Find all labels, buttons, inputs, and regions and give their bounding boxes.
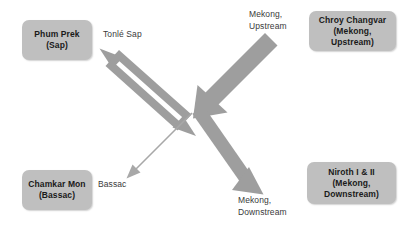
flow-diagram: Phum Prek (Sap) Chroy Changvar (Mekong, …: [0, 0, 403, 230]
node-phum-prek[interactable]: Phum Prek (Sap): [22, 20, 92, 60]
node-chroy-changvar[interactable]: Chroy Changvar (Mekong, Upstream): [309, 11, 396, 51]
node-niroth[interactable]: Niroth I & II (Mekong, Downstream): [307, 162, 396, 204]
edge-label-mekong-downstream: Mekong, Downstream: [238, 195, 306, 218]
edge-label-tonle-sap: Tonlé Sap: [103, 29, 163, 41]
node-chroy-changvar-label: Chroy Changvar (Mekong, Upstream): [316, 15, 390, 48]
node-chamkar-mon-label: Chamkar Mon (Bassac): [25, 179, 88, 201]
node-chamkar-mon[interactable]: Chamkar Mon (Bassac): [22, 170, 92, 210]
edge-label-mekong-upstream: Mekong, Upstream: [249, 9, 305, 32]
node-niroth-label: Niroth I & II (Mekong, Downstream): [321, 167, 382, 200]
arrow-mekong-upstream: [193, 33, 278, 119]
edge-label-bassac: Bassac: [98, 179, 142, 191]
node-phum-prek-label: Phum Prek (Sap): [31, 29, 82, 51]
arrow-bassac: [127, 113, 193, 179]
arrow-mekong-downstream: [193, 105, 264, 195]
